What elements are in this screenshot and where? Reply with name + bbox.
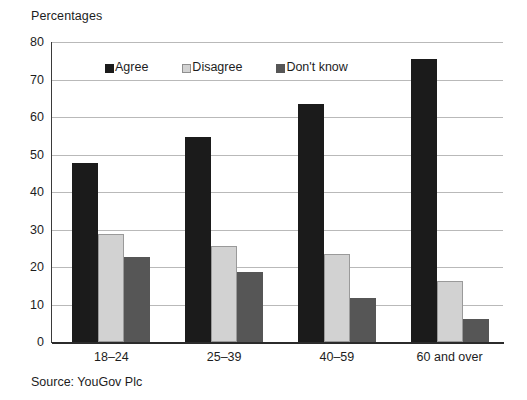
bar-agree-1 [185, 137, 211, 342]
y-axis-tick-labels: 01020304050607080 [12, 0, 44, 400]
bar-disagree-0 [98, 234, 124, 342]
x-axis-tick-label: 60 and over [417, 350, 483, 364]
y-axis-tick-label: 40 [14, 185, 44, 199]
x-axis-tick-label: 25–39 [207, 350, 242, 364]
bar-dontknow-2 [350, 298, 376, 342]
square-swatch-light-gray-icon [182, 64, 191, 73]
y-axis-tick-label: 0 [14, 335, 44, 349]
bar-disagree-3 [437, 281, 463, 342]
y-axis-tick-label: 70 [14, 73, 44, 87]
square-swatch-dark-gray-icon [276, 64, 285, 73]
legend-item-label: Don't know [286, 60, 347, 74]
x-axis-line [52, 342, 504, 344]
legend-item-agree: Agree [105, 60, 148, 74]
bar-agree-0 [72, 163, 98, 342]
y-axis-tick-label: 50 [14, 148, 44, 162]
chart-figure: Percentages 01020304050607080 18–2425–39… [0, 0, 527, 400]
y-axis-tick-label: 20 [14, 260, 44, 274]
y-axis-tick-label: 10 [14, 298, 44, 312]
bar-disagree-2 [324, 254, 350, 343]
chart-legend: AgreeDisagreeDon't know [105, 60, 348, 74]
y-axis-line [51, 42, 52, 343]
legend-item-dontknow: Don't know [276, 60, 347, 74]
source-note: Source: YouGov Plc [31, 375, 142, 389]
plot-area [52, 42, 503, 342]
y-axis-tick-label: 30 [14, 223, 44, 237]
bar-dontknow-0 [124, 257, 150, 343]
bar-agree-3 [411, 59, 437, 343]
legend-item-label: Disagree [192, 60, 242, 74]
bar-agree-2 [298, 104, 324, 342]
legend-item-disagree: Disagree [182, 60, 242, 74]
x-axis-tick-label: 40–59 [319, 350, 354, 364]
y-axis-tick-label: 80 [14, 35, 44, 49]
y-axis-tick-label: 60 [14, 110, 44, 124]
gridline [52, 42, 503, 43]
bar-disagree-1 [211, 246, 237, 342]
legend-item-label: Agree [115, 60, 148, 74]
bar-dontknow-3 [463, 319, 489, 342]
square-swatch-black-icon [105, 64, 114, 73]
x-axis-tick-label: 18–24 [94, 350, 129, 364]
bar-dontknow-1 [237, 272, 263, 343]
